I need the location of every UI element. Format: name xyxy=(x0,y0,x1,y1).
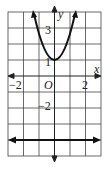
y-tick-neg2: −2 xyxy=(38,100,51,112)
x-tick-2: 2 xyxy=(82,79,88,91)
origin-label: O xyxy=(44,79,53,91)
y-tick-3: 3 xyxy=(45,24,51,36)
x-tick-neg2: −2 xyxy=(9,79,22,91)
y-tick-1: 1 xyxy=(45,56,51,68)
x-axis-label: x xyxy=(94,63,99,75)
y-axis-label: y xyxy=(58,8,63,20)
